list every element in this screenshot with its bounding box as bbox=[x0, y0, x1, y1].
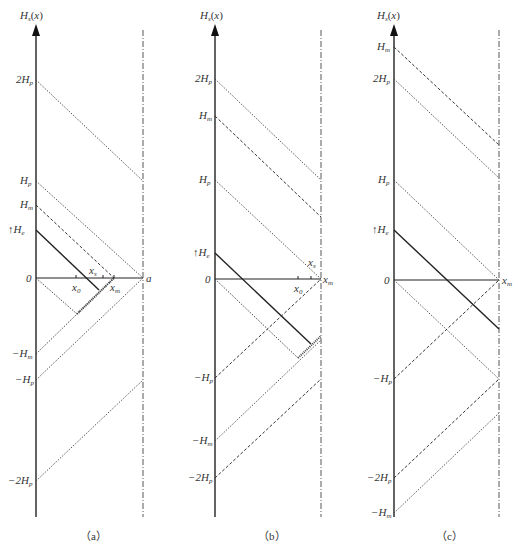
label-xs: xs bbox=[88, 264, 97, 278]
label-Hm: Hm bbox=[19, 198, 33, 212]
label-Hp: Hp bbox=[198, 173, 211, 187]
caption-a: （a） bbox=[80, 530, 107, 542]
label-Hp: Hp bbox=[19, 174, 32, 188]
label-Hm: Hm bbox=[198, 109, 212, 123]
label-xm: xm bbox=[501, 274, 512, 288]
label-neg-2Hp: −2Hp bbox=[188, 471, 213, 485]
label-neg-Hp: −Hp bbox=[373, 372, 392, 386]
panel-b: Hs(x) 2Hp Hm Hp ↑He 0 −Hp −Hm −2Hp x0 xs… bbox=[188, 9, 333, 542]
label-xs: xs bbox=[307, 256, 316, 270]
caption-c: （c） bbox=[436, 530, 463, 542]
label-a: a bbox=[146, 272, 152, 284]
label-neg-Hp: −Hp bbox=[194, 371, 213, 385]
label-xm: xm bbox=[109, 281, 120, 295]
label-neg-Hm: −Hm bbox=[192, 434, 212, 448]
axis-title: Hs(x) bbox=[199, 9, 223, 23]
label-2Hp: 2Hp bbox=[16, 73, 33, 87]
label-neg-Hm: −Hm bbox=[371, 506, 391, 520]
label-2Hp: 2Hp bbox=[373, 72, 390, 86]
label-x0: x0 bbox=[71, 281, 81, 295]
label-zero: 0 bbox=[384, 274, 390, 286]
label-He: ↑He bbox=[193, 246, 210, 260]
field-profile-diagram: Hs(x) 2Hp Hp Hm ↑He 0 −Hm −Hp −2Hp x0 xs… bbox=[0, 0, 518, 555]
label-He: ↑He bbox=[372, 223, 389, 237]
axis-arrow-icon bbox=[211, 24, 219, 36]
caption-b: （b） bbox=[258, 530, 286, 542]
label-x0: x0 bbox=[293, 282, 303, 296]
label-xm: xm bbox=[322, 273, 333, 287]
axis-title: Hs(x) bbox=[19, 9, 43, 23]
panel-a: Hs(x) 2Hp Hp Hm ↑He 0 −Hm −Hp −2Hp x0 xs… bbox=[8, 9, 152, 542]
label-neg-2Hp: −2Hp bbox=[367, 471, 392, 485]
axis-title: Hs(x) bbox=[376, 9, 400, 23]
label-neg-Hm: −Hm bbox=[12, 347, 32, 361]
label-neg-Hp: −Hp bbox=[15, 373, 34, 387]
axis-arrow-icon bbox=[32, 24, 40, 36]
label-zero: 0 bbox=[205, 273, 211, 285]
label-He: ↑He bbox=[8, 223, 25, 237]
label-zero: 0 bbox=[26, 272, 32, 284]
label-neg-2Hp: −2Hp bbox=[8, 474, 33, 488]
label-Hm: Hm bbox=[376, 40, 390, 54]
axis-arrow-icon bbox=[390, 24, 398, 36]
label-Hp: Hp bbox=[377, 173, 390, 187]
panel-c: Hs(x) Hm 2Hp Hp ↑He 0 −Hp −2Hp −Hm xm （c… bbox=[367, 9, 512, 542]
label-2Hp: 2Hp bbox=[195, 72, 212, 86]
